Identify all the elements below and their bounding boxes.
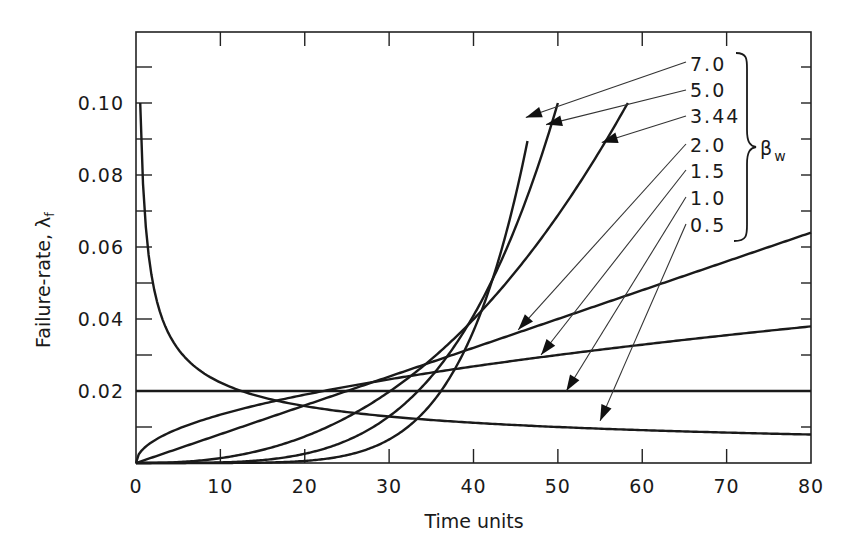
y-tick-label: 0.06 [78,236,124,258]
legend-leader-arrows [518,62,686,421]
x-tick-label: 40 [460,475,486,497]
legend-entry-0-5: 0.5 [690,214,726,236]
arrowhead-icon [566,374,579,391]
y-axis-title-subscript: f [42,212,57,217]
legend-brace [734,53,756,241]
curve-beta-3-44 [136,103,628,463]
x-tick-label: 0 [129,475,142,497]
legend-entry-5-0: 5.0 [690,79,726,101]
x-tick-label: 30 [376,475,402,497]
y-axis-title-main: Failure-rate, λ [32,217,54,348]
legend-entry-2-0: 2.0 [690,134,726,156]
x-tick-label: 10 [207,475,233,497]
curve-group [136,103,811,463]
arrowhead-icon [600,404,611,421]
arrowhead-icon [541,339,555,355]
x-axis-title: Time units [423,510,523,532]
legend-entry-1-5: 1.5 [690,160,726,182]
leader-line-7-0 [526,62,686,117]
legend-parameter-label: βw [760,137,788,164]
x-tick-label: 70 [714,475,740,497]
y-tick-label: 0.04 [78,308,124,330]
leader-line-5-0 [546,90,686,125]
weibull-failure-rate-chart: 01020304050607080 0.020.040.060.080.10 7… [0,0,858,553]
arrowhead-icon [526,107,543,117]
legend: 7.05.03.442.01.51.00.5 [690,53,740,236]
curve-beta-2-0 [136,233,811,463]
x-tick-label: 60 [629,475,655,497]
y-tick-label: 0.10 [78,92,124,114]
leader-line-1-5 [541,170,686,355]
legend-entry-3-44: 3.44 [690,105,740,127]
y-axis-title: Failure-rate, λf [32,212,57,348]
curve-beta-7-0 [136,141,528,463]
curve-beta-5-0 [136,103,558,463]
x-tick-label: 50 [545,475,571,497]
y-tick-label: 0.08 [78,164,124,186]
y-tick-label: 0.02 [78,380,124,402]
legend-entry-1-0: 1.0 [690,187,726,209]
x-tick-label: 20 [292,475,318,497]
legend-entry-7-0: 7.0 [690,53,726,75]
svg-text:Failure-rate, λf: Failure-rate, λf [32,212,57,348]
x-tick-label: 80 [798,475,824,497]
